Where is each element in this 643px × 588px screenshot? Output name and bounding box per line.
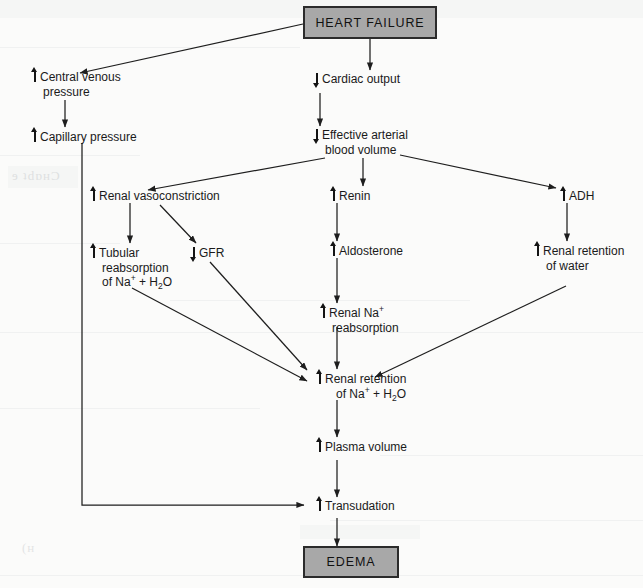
node-label: GFR xyxy=(199,246,224,261)
node-label-line2: of water xyxy=(546,259,624,274)
up-arrow-icon xyxy=(534,244,543,257)
node-label: Cardiac output xyxy=(322,72,400,87)
node-tubular-reabsorption: Tubular reabsorption of Na+ + H2O xyxy=(90,246,172,290)
node-label-line3: of Na+ + H2O xyxy=(102,275,172,290)
node-aldosterone: Aldosterone xyxy=(330,244,403,259)
edge-eabv-to-rvc xyxy=(148,158,325,190)
down-arrow-icon xyxy=(313,72,322,85)
edge-rrw-to-rrn xyxy=(375,286,566,377)
edge-hf-to-cvp xyxy=(80,24,303,73)
node-label-line2: reabsorption xyxy=(102,261,172,276)
up-arrow-icon xyxy=(330,189,339,202)
down-arrow-icon xyxy=(313,128,322,141)
up-arrow-icon xyxy=(90,246,99,259)
node-label: Effective arterial xyxy=(322,128,408,143)
up-arrow-icon xyxy=(320,306,329,319)
node-plasma-volume: Plasma volume xyxy=(316,440,407,455)
node-renal-vasoconstriction: Renal vasoconstriction xyxy=(90,189,220,204)
up-arrow-icon xyxy=(316,499,325,512)
up-arrow-icon xyxy=(31,130,40,143)
node-capillary-pressure: Capillary pressure xyxy=(31,130,137,145)
node-gfr: GFR xyxy=(190,246,224,261)
node-label: Capillary pressure xyxy=(40,130,137,145)
node-label: Plasma volume xyxy=(325,440,407,455)
up-arrow-icon xyxy=(31,70,40,83)
up-arrow-icon xyxy=(560,189,569,202)
diagram-page: ɘ ʇdɒʜƆ (ʜ xyxy=(0,0,643,588)
terminal-edema-label: EDEMA xyxy=(327,555,376,569)
edge-rvc-to-gfr xyxy=(160,205,196,243)
node-label-line2: reabsorption xyxy=(332,321,399,336)
node-renal-retention-water: Renal retention of water xyxy=(534,244,624,273)
node-label: Tubular xyxy=(99,246,139,261)
node-label: Transudation xyxy=(325,499,395,514)
node-central-venous-pressure: Central venous pressure xyxy=(31,70,121,99)
node-label: Renin xyxy=(339,189,370,204)
node-label: Renal Na+ xyxy=(329,306,384,321)
node-label-line2: pressure xyxy=(43,85,121,100)
node-renal-retention-na-h2o: Renal retention of Na+ + H2O xyxy=(316,372,406,401)
node-renin: Renin xyxy=(330,189,370,204)
node-cardiac-output: Cardiac output xyxy=(313,72,400,87)
terminal-edema: EDEMA xyxy=(303,546,399,578)
node-label: Renal retention xyxy=(543,244,624,259)
node-adh: ADH xyxy=(560,189,594,204)
edge-tubular-to-rrn xyxy=(132,288,307,381)
node-transudation: Transudation xyxy=(316,499,395,514)
up-arrow-icon xyxy=(90,189,99,202)
up-arrow-icon xyxy=(316,440,325,453)
terminal-heart-failure: HEART FAILURE xyxy=(303,6,437,39)
edge-eabv-to-adh xyxy=(400,155,556,188)
node-label: Central venous xyxy=(40,70,121,85)
node-label: ADH xyxy=(569,189,594,204)
down-arrow-icon xyxy=(190,246,199,259)
node-label-line2: blood volume xyxy=(325,143,408,158)
up-arrow-icon xyxy=(316,372,325,385)
edge-gfr-to-rrn xyxy=(210,262,307,370)
up-arrow-icon xyxy=(330,244,339,257)
node-label-line2: of Na+ + H2O xyxy=(336,387,406,402)
node-label: Aldosterone xyxy=(339,244,403,259)
node-label: Renal vasoconstriction xyxy=(99,189,220,204)
node-renal-na-reabsorption: Renal Na+ reabsorption xyxy=(320,306,399,335)
node-effective-arterial-blood-volume: Effective arterial blood volume xyxy=(313,128,408,157)
terminal-heart-failure-label: HEART FAILURE xyxy=(315,16,424,30)
